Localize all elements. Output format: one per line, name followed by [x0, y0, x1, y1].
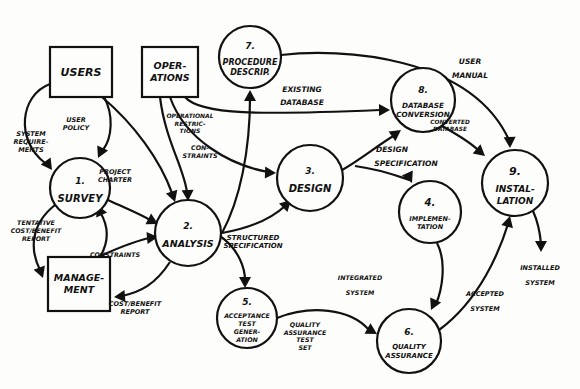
flow-label-tentative-cost-benefit: TENTATIVECOST/BENEFITREPORT [11, 219, 62, 242]
flow-installed-system [533, 211, 547, 252]
process-label-line: TATION [417, 223, 444, 231]
process-circle [482, 150, 548, 216]
process-number: 2. [183, 221, 193, 231]
flow-label-line: STRUCTURED [227, 234, 280, 242]
process-circle [50, 158, 110, 218]
arrowhead-icon [535, 241, 547, 252]
flow-label-line: TEST [296, 336, 314, 343]
flow-label-line: SYSTEM [525, 279, 555, 287]
flow-line [436, 243, 443, 304]
flow-label-line: COST/BENEFIT [11, 227, 62, 234]
flow-label-line: SET [298, 344, 312, 351]
flow-label-line: USER [66, 116, 85, 124]
flow-label-installed-system: INSTALLEDSYSTEM [520, 264, 560, 287]
process-label-line: IMPLEMEN- [409, 215, 451, 223]
process-label-line: DATABASE [402, 101, 444, 110]
arrowhead-icon [265, 167, 276, 179]
process-label-line: DESIGN [289, 183, 332, 194]
flow-label-line: ASSURANCE [283, 329, 327, 336]
flow-label-system-requirements: SYSTEMREQUIRE-MENTS [14, 130, 49, 154]
process-label: DATABASECONVERSION [396, 101, 449, 119]
process-number: 7. [245, 41, 255, 51]
arrowhead-icon [389, 125, 405, 141]
flow-line [122, 262, 170, 296]
flow-line [108, 200, 150, 220]
process-label: PROCEDUREDESCRIP. [223, 58, 278, 77]
entity-label: USERS [61, 66, 102, 79]
flow-user-policy [93, 97, 111, 161]
entity-operations: OPER-ATIONS [142, 47, 198, 97]
process-label: ANALYSIS [161, 238, 213, 249]
process-label-line: GENER- [234, 328, 261, 335]
process-label-line: DESCRIP. [230, 68, 270, 77]
arrowhead-icon [244, 90, 256, 101]
flow-label-line: SYSTEM [346, 289, 375, 296]
process-number: 9. [509, 165, 521, 178]
flow-label-design-specification: DESIGNSPECIFICATION [374, 145, 438, 168]
flow-label-line: SPECIFICATION [223, 242, 282, 250]
process-number: 1. [75, 176, 85, 186]
flow-label-line: POLICY [63, 124, 91, 132]
flow-design-to-implementation [355, 166, 417, 186]
flow-integrated-system [426, 243, 443, 313]
process-number: 5. [242, 297, 252, 307]
flow-label-line: USER [459, 57, 482, 66]
entity-label: OPER-ATIONS [149, 60, 189, 83]
entity-label-line: USERS [61, 66, 102, 79]
process-label-line: INSTAL- [495, 184, 535, 194]
flow-label-user-policy: USERPOLICY [63, 116, 91, 132]
flow-label-structured-specification: STRUCTUREDSPECIFICATION [223, 234, 282, 250]
process-label-line: SURVEY [58, 193, 105, 204]
flow-label-line: CON- [191, 144, 209, 151]
process-circle [155, 200, 221, 266]
process-label-line: QUALITY [392, 343, 427, 351]
process-number: 8. [418, 85, 428, 95]
flow-project-charter [108, 200, 161, 229]
flow-label-line: CHARTER [98, 176, 132, 184]
process-label: SURVEY [58, 193, 105, 204]
process-circle [399, 181, 461, 243]
flow-label-line: SYSTEM [16, 130, 46, 138]
process-label-line: TEST [238, 320, 256, 327]
flow-label-constraints-mgmt: CONSTRAINTS [90, 251, 141, 258]
process-label: DESIGN [289, 183, 332, 194]
flow-label-line: CONSTRAINTS [90, 251, 141, 258]
arrowhead-icon [239, 277, 251, 288]
process-p9: 9.INSTAL-LATION [482, 150, 548, 216]
flow-label-constraints-ops: CON-STRAINTS [183, 144, 218, 159]
process-label-line: ATION [235, 336, 258, 343]
process-label-line: ASSURANCE [384, 352, 433, 360]
flow-label-line: INTEGRATED [338, 274, 382, 281]
process-label-line: PROCEDURE [223, 58, 278, 67]
flow-label-line: REQUIRE- [14, 138, 49, 146]
entity-management: MANAGE-MENT [48, 257, 110, 311]
flow-label-converted-database: CONVERTEDDATABASE [430, 119, 470, 132]
flow-label-line: EXISTING [282, 85, 321, 94]
process-label-line: CONVERSION [396, 110, 449, 119]
process-label: INSTAL-LATION [495, 184, 535, 205]
flow-label-qa-test-set: QUALITYASSURANCETESTSET [283, 321, 327, 351]
flow-label-line: DESIGN [376, 145, 409, 154]
process-p5: 5.ACCEPTANCETESTGENER-ATION [217, 288, 277, 348]
flow-label-line: PROJECT [99, 168, 131, 176]
process-label: QUALITYASSURANCE [384, 343, 433, 360]
entity-label-line: MANAGE- [54, 272, 104, 283]
flow-label-line: RESTRIC- [175, 120, 206, 127]
process-label-line: ACCEPTANCE [223, 312, 270, 319]
entity-users: USERS [50, 47, 112, 97]
flow-label-line: COST/BENEFIT [109, 300, 162, 308]
process-circle [277, 145, 343, 211]
flow-structured-specification [222, 196, 295, 233]
process-number: 6. [404, 327, 414, 337]
flow-label-line: SPECIFICATION [374, 159, 438, 168]
flow-label-accepted-system: ACCEPTEDSYSTEM [465, 290, 504, 313]
flow-label-line: SYSTEM [470, 305, 500, 313]
flow-label-line: REPORT [121, 308, 150, 316]
flow-label-line: REPORT [22, 235, 51, 242]
flow-label-line: DATABASE [433, 126, 467, 132]
flow-label-line: QUALITY [290, 321, 322, 328]
process-p7: 7.PROCEDUREDESCRIP. [219, 26, 281, 88]
flow-line [355, 166, 410, 180]
flow-label-operational-restrictions: OPERATIONALRESTRIC-TIONS [166, 112, 213, 134]
process-label-line: LATION [497, 196, 534, 206]
